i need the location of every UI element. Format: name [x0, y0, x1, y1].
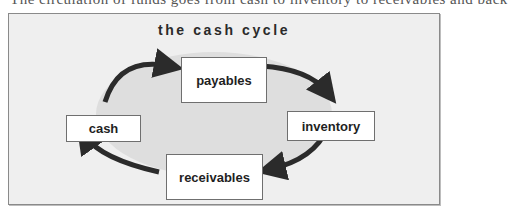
diagram-title: the cash cycle — [9, 22, 439, 38]
node-inventory-label: inventory — [302, 119, 361, 134]
node-payables-label: payables — [196, 73, 252, 88]
node-cash: cash — [66, 115, 141, 142]
node-inventory: inventory — [287, 111, 375, 141]
node-cash-label: cash — [89, 121, 119, 136]
node-receivables: receivables — [166, 154, 263, 200]
node-payables: payables — [181, 57, 267, 103]
node-receivables-label: receivables — [179, 170, 250, 185]
cropped-body-text: The circulation of funds goes from cash … — [10, 0, 508, 8]
diagram-frame: the cash cycle payables cash inventory r… — [8, 13, 440, 205]
